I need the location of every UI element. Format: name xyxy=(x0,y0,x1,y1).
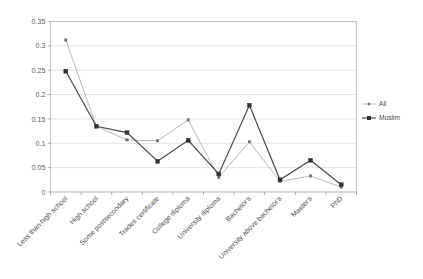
y-axis-tick-label: 0.25 xyxy=(32,66,46,75)
legend-item-label: All xyxy=(379,100,387,107)
data-point-marker xyxy=(126,139,128,141)
data-point-marker xyxy=(248,141,250,143)
chart-background xyxy=(0,0,423,279)
data-point-marker xyxy=(156,159,160,163)
line-chart: 00.050.10.150.20.250.30.35 Less than hig… xyxy=(0,0,423,279)
y-axis-tick-label: 0.3 xyxy=(36,41,46,50)
y-axis-tick-label: 0.15 xyxy=(32,115,46,124)
y-axis-tick-label: 0.05 xyxy=(32,163,46,172)
chart-svg: 00.050.10.150.20.250.30.35 Less than hig… xyxy=(0,0,423,279)
data-point-marker xyxy=(65,39,67,41)
data-point-marker xyxy=(339,183,343,187)
data-point-marker xyxy=(218,176,220,178)
data-point-marker xyxy=(125,131,129,135)
data-point-marker xyxy=(94,124,98,128)
y-axis-tick-label: 0.1 xyxy=(36,139,46,148)
data-point-marker xyxy=(186,138,190,142)
legend-marker-swatch xyxy=(367,116,371,120)
legend-item-label: Muslim xyxy=(379,114,400,121)
data-point-marker xyxy=(156,140,158,142)
y-axis-tick-label: 0.35 xyxy=(32,17,46,26)
y-axis-tick-label: 0.2 xyxy=(36,90,46,99)
data-point-marker xyxy=(217,172,221,176)
data-point-marker xyxy=(309,175,311,177)
legend-marker-swatch xyxy=(368,103,370,105)
data-point-marker xyxy=(187,119,189,121)
data-point-marker xyxy=(64,69,68,73)
data-point-marker xyxy=(278,178,282,182)
y-axis-tick-label: 0 xyxy=(42,188,46,197)
data-point-marker xyxy=(247,103,251,107)
data-point-marker xyxy=(309,158,313,162)
